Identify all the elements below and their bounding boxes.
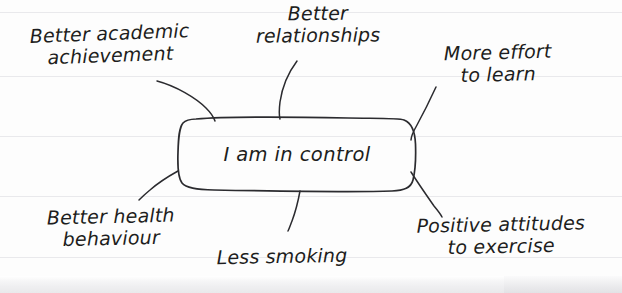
central-node-label: I am in control bbox=[178, 118, 416, 191]
branch-label-better-health-behaviour: Better health behaviour bbox=[18, 203, 205, 251]
branch-label-better-relationships: Better relationships bbox=[232, 1, 404, 47]
branch-label-positive-attitudes-to-exercise: Positive attitudes to exercise bbox=[396, 211, 607, 259]
page-bottom-edge-shadow bbox=[504, 276, 622, 293]
branch-label-less-smoking: Less smoking bbox=[202, 244, 362, 269]
branch-label-better-academic-achievement: Better academic achievement bbox=[5, 18, 214, 70]
branch-label-more-effort-to-learn: More effort to learn bbox=[407, 39, 588, 87]
mind-map-page: I am in control Better academic achievem… bbox=[0, 0, 622, 293]
rule-line bbox=[0, 196, 622, 197]
